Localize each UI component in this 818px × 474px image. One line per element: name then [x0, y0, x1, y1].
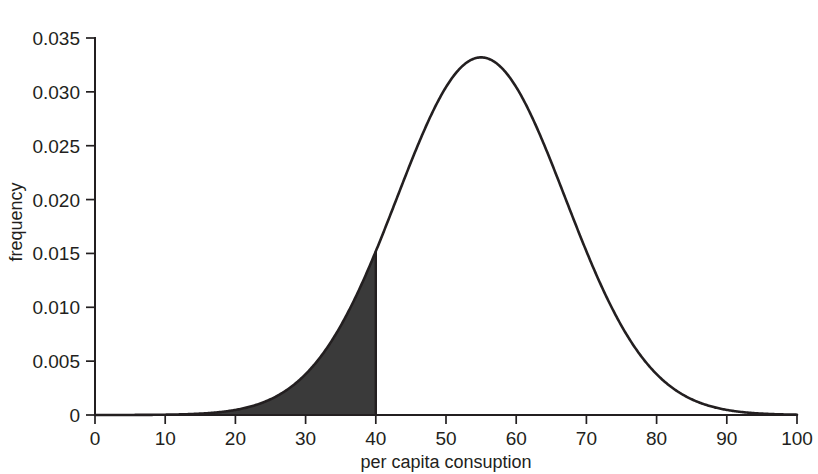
x-tick-label: 20 [225, 428, 246, 449]
shaded-tail-area [95, 251, 376, 415]
x-tick-label: 50 [435, 428, 456, 449]
x-tick-label: 60 [506, 428, 527, 449]
x-tick-label: 70 [576, 428, 597, 449]
y-tick-label: 0.035 [32, 28, 80, 49]
x-axis-title: per capita consuption [360, 452, 531, 472]
y-tick-label: 0 [69, 405, 80, 426]
y-tick-label: 0.025 [32, 136, 80, 157]
y-axis-title: frequency [6, 182, 26, 261]
shaded-area-group [95, 251, 376, 415]
x-tick-label: 40 [365, 428, 386, 449]
chart-figure: 0102030405060708090100 00.0050.0100.0150… [0, 0, 818, 474]
x-tick-label: 100 [781, 428, 813, 449]
x-axis-ticks [95, 415, 797, 424]
y-tick-label: 0.020 [32, 190, 80, 211]
x-tick-label: 30 [295, 428, 316, 449]
x-tick-label: 10 [155, 428, 176, 449]
y-tick-label: 0.015 [32, 243, 80, 264]
y-tick-label: 0.005 [32, 351, 80, 372]
x-tick-label: 90 [716, 428, 737, 449]
x-axis-tick-labels: 0102030405060708090100 [90, 428, 813, 449]
x-tick-label: 80 [646, 428, 667, 449]
y-tick-label: 0.010 [32, 297, 80, 318]
density-curve [95, 57, 797, 415]
distribution-chart: 0102030405060708090100 00.0050.0100.0150… [0, 0, 818, 474]
y-axis-ticks [86, 38, 95, 415]
y-tick-label: 0.030 [32, 82, 80, 103]
y-axis-tick-labels: 00.0050.0100.0150.0200.0250.0300.035 [32, 28, 80, 426]
x-tick-label: 0 [90, 428, 101, 449]
